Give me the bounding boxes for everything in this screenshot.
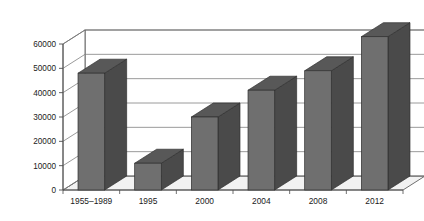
x-axis-label-2012: 2012 [365, 196, 384, 206]
bar-2008 [305, 57, 354, 190]
y-axis-label-20000: 20000 [33, 137, 56, 146]
bar-chart: 01000020000300004000050000600001955–1989… [0, 0, 424, 221]
x-axis-label-2004: 2004 [252, 196, 271, 206]
y-axis-label-10000: 10000 [33, 162, 56, 171]
x-axis-label-1995: 1995 [139, 196, 158, 206]
bar-side-face [105, 59, 127, 190]
y-axis-label-0: 0 [51, 186, 56, 195]
bar-side-face [218, 103, 240, 190]
bar-front-face [191, 117, 218, 190]
bar-2004 [248, 76, 297, 190]
bar-1955–1989 [78, 59, 127, 190]
bar-side-face [388, 23, 410, 190]
bar-2012 [361, 23, 410, 190]
bar-2000 [191, 103, 240, 190]
y-axis-label-40000: 40000 [33, 89, 56, 98]
y-axis-label-60000: 60000 [33, 40, 56, 49]
bar-front-face [361, 37, 388, 190]
bar-side-face [331, 57, 353, 190]
bar-front-face [248, 90, 275, 190]
bar-front-face [135, 163, 162, 190]
bar-front-face [305, 71, 332, 190]
bar-side-face [275, 76, 297, 190]
x-axis-label-1955–1989: 1955–1989 [70, 196, 112, 206]
x-axis-label-2008: 2008 [309, 196, 328, 206]
chart-canvas: 01000020000300004000050000600001955–1989… [0, 0, 424, 221]
x-axis-label-2000: 2000 [195, 196, 214, 206]
y-axis-label-30000: 30000 [33, 113, 56, 122]
y-axis-label-50000: 50000 [33, 64, 56, 73]
bar-front-face [78, 73, 105, 190]
